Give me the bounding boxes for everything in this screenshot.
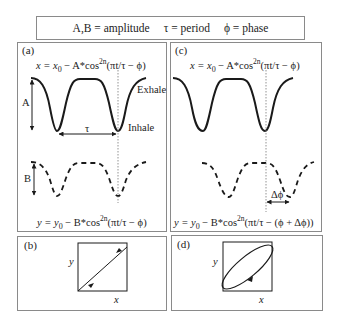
trajectory-arrow-up xyxy=(88,283,94,288)
diagram-graphics xyxy=(0,0,338,323)
out-of-phase-loop xyxy=(217,239,279,295)
y-signal-curve-c xyxy=(202,162,314,197)
in-phase-trajectory xyxy=(78,247,127,291)
panel-d-plot-frame xyxy=(223,242,272,291)
y-signal-curve-a xyxy=(31,162,146,196)
x-signal-curve-c xyxy=(173,78,293,131)
x-signal-curve-a xyxy=(31,78,146,131)
